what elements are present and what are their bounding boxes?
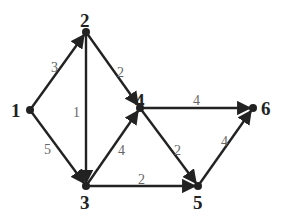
edge-1-3 — [30, 110, 84, 183]
weight-1-3: 5 — [44, 142, 51, 157]
node-5 — [194, 182, 202, 190]
node-label-4: 4 — [135, 90, 145, 111]
weight-2-3: 1 — [73, 105, 80, 120]
edge-4-5 — [140, 108, 196, 183]
weight-4-6: 4 — [193, 93, 200, 108]
weight-4-5: 2 — [174, 143, 181, 158]
node-3 — [82, 182, 90, 190]
node-label-3: 3 — [80, 192, 90, 213]
edge-2-4 — [86, 32, 138, 105]
weight-1-2: 3 — [51, 60, 58, 75]
edge-3-4 — [86, 111, 138, 186]
node-6 — [249, 104, 257, 112]
node-label-5: 5 — [193, 192, 203, 213]
node-label-6: 6 — [261, 98, 271, 119]
node-label-1: 1 — [11, 100, 21, 121]
graph-svg: 1 2 3 4 5 6 3 5 1 2 4 2 4 2 4 — [0, 0, 283, 219]
node-1 — [26, 106, 34, 114]
weighted-directed-graph: 1 2 3 4 5 6 3 5 1 2 4 2 4 2 4 — [0, 0, 283, 219]
weight-3-5: 2 — [138, 172, 145, 187]
weight-2-4: 2 — [117, 65, 124, 80]
weight-3-4: 4 — [118, 143, 125, 158]
weight-5-6: 4 — [221, 134, 228, 149]
node-label-2: 2 — [80, 10, 90, 31]
